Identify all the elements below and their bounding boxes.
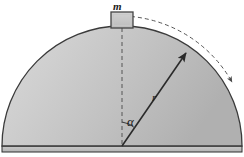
ground-band <box>2 146 242 152</box>
diagram-canvas <box>0 0 244 157</box>
radius-label: r <box>152 92 156 103</box>
physics-diagram: m r α <box>0 0 244 157</box>
mass-label: m <box>113 1 122 12</box>
angle-label: α <box>127 115 134 128</box>
